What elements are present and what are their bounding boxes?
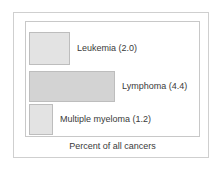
bar-row: Lymphoma (4.4): [29, 71, 187, 102]
bar-row: Leukemia (2.0): [29, 32, 137, 65]
bar-label-leukemia: Leukemia (2.0): [77, 44, 137, 53]
axis-caption: Percent of all cancers: [25, 141, 200, 151]
figure-frame: Leukemia (2.0) Lymphoma (4.4) Multiple m…: [13, 12, 209, 158]
bar-multiple-myeloma: [29, 104, 53, 135]
bar-row: Multiple myeloma (1.2): [29, 104, 151, 135]
plot-area: Leukemia (2.0) Lymphoma (4.4) Multiple m…: [25, 21, 200, 137]
bar-label-multiple-myeloma: Multiple myeloma (1.2): [60, 115, 151, 124]
bar-lymphoma: [29, 71, 115, 102]
bar-label-lymphoma: Lymphoma (4.4): [122, 82, 187, 91]
bar-leukemia: [29, 32, 70, 65]
